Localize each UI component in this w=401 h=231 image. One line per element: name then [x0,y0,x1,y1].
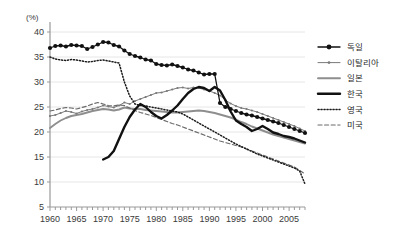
x-tick-label: 1980 [146,214,166,224]
series-marker [235,105,237,107]
series-marker [96,42,100,46]
legend-item-이탈리아[interactable]: 이탈리아 [318,58,379,68]
x-tick-label: 1995 [226,214,246,224]
x-axis: 1960196519701975198019851990199520002005 [40,207,305,224]
legend-label: 일본 [347,73,363,83]
series-marker [154,62,158,66]
y-tick-label: 35 [34,52,44,62]
series-marker [102,104,104,106]
series-marker [260,116,264,120]
series-marker [60,112,62,114]
x-tick-label: 2000 [252,214,272,224]
series-marker [139,98,141,100]
series-marker [118,104,120,106]
series-marker [214,92,216,94]
series-marker [197,70,201,74]
series-marker [59,43,63,47]
series-marker [202,72,206,76]
series-marker [240,107,242,109]
series-marker [165,63,169,67]
series-marker [64,44,68,48]
series-marker [271,119,275,123]
series-marker [91,108,93,110]
y-tick-label: 25 [34,102,44,112]
series-marker [155,92,157,94]
legend: 독일이탈리아일본한국영국미국 [318,42,379,130]
series-marker [244,112,248,116]
series-marker [101,40,105,44]
series-marker [187,87,189,89]
legend-item-영국[interactable]: 영국 [318,105,363,115]
y-tick-label: 5 [39,202,44,212]
series-marker [138,55,142,59]
series-marker [159,63,163,67]
series-marker [213,72,217,76]
series-marker [160,91,162,93]
y-axis-unit-label: (%) [26,13,39,22]
series-marker [149,58,153,62]
series-marker [54,114,56,116]
series-marker [303,131,307,135]
y-tick-label: 15 [34,152,44,162]
series-marker [70,111,72,113]
y-tick-label: 40 [34,27,44,37]
legend-item-한국[interactable]: 한국 [318,89,363,99]
series-marker [113,106,115,108]
series-marker [191,68,195,72]
series-marker [293,125,295,127]
series-marker [65,110,67,112]
series-marker [239,111,243,115]
series-marker [106,40,110,44]
legend-swatch-marker [328,61,331,64]
series-marker [97,106,99,108]
series-marker [80,44,84,48]
y-tick-label: 20 [34,127,44,137]
series-marker [129,103,131,105]
series-marker [144,57,148,61]
legend-item-일본[interactable]: 일본 [318,73,363,83]
y-tick-label: 10 [34,177,44,187]
series-marker [49,115,51,117]
y-tick-label: 30 [34,77,44,87]
series-marker [282,123,286,127]
series-marker [292,127,296,131]
series-marker [276,121,280,125]
series-marker [186,67,190,71]
y-axis-unit: (%) [26,13,39,22]
legend-label: 한국 [347,89,363,99]
series-marker [86,109,88,111]
series-marker [261,113,263,115]
legend-label: 독일 [347,42,363,52]
series-marker [255,115,259,119]
series-marker [166,90,168,92]
line-chart: 403530252015105(%)1960196519701975198019… [0,0,401,231]
series-marker [171,88,173,90]
x-tick-label: 1970 [93,214,113,224]
series-marker [145,96,147,98]
series-marker [123,101,125,103]
x-tick-label: 1985 [173,214,193,224]
legend-swatch-marker [327,45,332,50]
series-marker [181,65,185,69]
series-marker [175,64,179,68]
x-tick-label: 1965 [67,214,87,224]
series-marker [170,62,174,66]
series-marker [53,44,57,48]
series-marker [207,72,211,76]
series-marker [150,94,152,96]
legend-label: 영국 [347,105,363,115]
series-marker [90,45,94,49]
legend-item-독일[interactable]: 독일 [318,42,363,52]
series-marker [267,115,269,117]
series-marker [75,112,77,114]
series-marker [107,105,109,107]
series-marker [133,54,137,58]
series-marker [256,111,258,113]
legend-label: 미국 [347,120,363,130]
legend-item-미국[interactable]: 미국 [318,120,363,130]
series-marker [283,121,285,123]
series-marker [81,110,83,112]
series-marker [266,118,270,122]
series-marker [176,87,178,89]
x-tick-label: 1975 [120,214,140,224]
